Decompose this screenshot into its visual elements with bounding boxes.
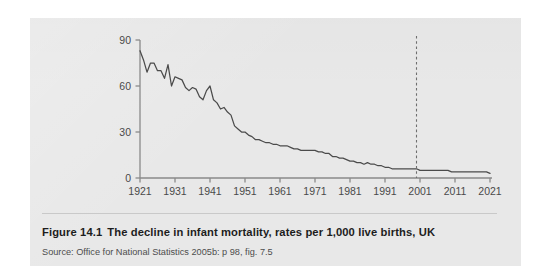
x-tick-label: 2011 <box>444 185 467 197</box>
x-tick-label: 1981 <box>338 185 362 197</box>
caption-divider <box>42 213 497 214</box>
x-tick-label: 1991 <box>373 185 397 197</box>
x-tick-label: 1931 <box>163 185 187 197</box>
x-tick-label: 1941 <box>198 185 222 197</box>
y-tick-label: 60 <box>119 80 131 92</box>
figure-panel: 0306090 19211931194119511961197119811991… <box>30 18 521 266</box>
data-series-group <box>140 51 490 174</box>
x-tick-label: 2021 <box>478 185 502 197</box>
x-tick-label: 1951 <box>233 185 257 197</box>
infant-mortality-line-chart: 0306090 19211931194119511961197119811991… <box>30 18 521 200</box>
x-axis: 1921193119411951196119711981199120012011… <box>128 178 502 197</box>
figure-caption-block: Figure 14.1The decline in infant mortali… <box>42 213 512 258</box>
x-tick-label: 2001 <box>408 185 432 197</box>
figure-number: Figure 14.1 <box>42 226 102 238</box>
chart-area: 0306090 19211931194119511961197119811991… <box>30 18 521 200</box>
figure-title-line: Figure 14.1The decline in infant mortali… <box>42 225 512 239</box>
y-axis: 0306090 <box>119 34 140 184</box>
data-series-line <box>140 51 490 174</box>
x-tick-label: 1921 <box>128 185 152 197</box>
y-tick-label: 90 <box>119 34 131 46</box>
figure-source: Source: Office for National Statistics 2… <box>42 246 512 258</box>
x-tick-label: 1971 <box>303 185 327 197</box>
y-tick-label: 0 <box>125 172 131 184</box>
y-tick-label: 30 <box>119 126 131 138</box>
figure-title: The decline in infant mortality, rates p… <box>107 226 435 238</box>
x-tick-label: 1961 <box>268 185 292 197</box>
